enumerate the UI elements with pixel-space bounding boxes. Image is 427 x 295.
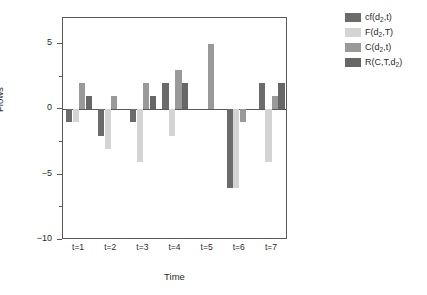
- bar: [162, 83, 168, 109]
- bar-group: [159, 18, 191, 238]
- legend-swatch: [345, 58, 361, 67]
- legend-label: F(d2,T): [365, 28, 393, 37]
- legend-item: C(d2,t): [345, 40, 425, 54]
- bar: [150, 96, 156, 109]
- bar: [208, 44, 214, 109]
- bar-group: [256, 18, 288, 238]
- y-tick-minor: [59, 76, 62, 77]
- bar-group: [127, 18, 159, 238]
- bar: [227, 109, 233, 187]
- legend-label: R(C,T,d2): [365, 58, 402, 67]
- y-tick-major: [57, 174, 62, 175]
- y-axis-title: Flows: [0, 87, 5, 112]
- bar: [259, 83, 265, 109]
- bars-layer: [63, 18, 286, 238]
- bar: [272, 96, 278, 109]
- x-axis-title: Time: [62, 271, 287, 282]
- y-tick-major: [57, 108, 62, 109]
- bar: [98, 109, 104, 135]
- bar: [278, 83, 284, 109]
- bar: [240, 109, 246, 122]
- bar: [73, 109, 79, 122]
- bar: [79, 83, 85, 109]
- legend-swatch: [345, 28, 361, 37]
- y-tick-minor: [59, 141, 62, 142]
- y-tick-major: [57, 239, 62, 240]
- legend-swatch: [345, 43, 361, 52]
- bar: [105, 109, 111, 148]
- y-tick-label: 0: [26, 103, 52, 112]
- legend-label: C(d2,t): [365, 43, 391, 52]
- bar-group: [95, 18, 127, 238]
- legend-item: R(C,T,d2): [345, 55, 425, 69]
- bar: [143, 83, 149, 109]
- legend-label: cf(d2,t): [365, 13, 392, 22]
- legend-swatch: [345, 13, 361, 22]
- bar-group: [63, 18, 95, 238]
- y-tick-minor: [59, 206, 62, 207]
- bar: [137, 109, 143, 161]
- bar-group: [192, 18, 224, 238]
- legend-item: F(d2,T): [345, 25, 425, 39]
- y-tick-label: −10: [26, 234, 52, 243]
- y-tick-label: 5: [26, 38, 52, 47]
- bar: [130, 109, 136, 122]
- chart-container: 50−5−10 Flows t=1t=2t=3t=4t=5t=6t=7 Time…: [0, 0, 427, 295]
- bar: [175, 70, 181, 109]
- y-tick-major: [57, 43, 62, 44]
- x-tick-label: t=7: [251, 243, 291, 252]
- y-tick-label: −5: [26, 169, 52, 178]
- bar: [169, 109, 175, 135]
- bar: [66, 109, 72, 122]
- bar: [111, 96, 117, 109]
- bar: [182, 83, 188, 109]
- bar-group: [224, 18, 256, 238]
- legend-item: cf(d2,t): [345, 10, 425, 24]
- plot-frame: [62, 17, 287, 239]
- bar: [265, 109, 271, 161]
- bar: [86, 96, 92, 109]
- bar: [233, 109, 239, 187]
- legend: cf(d2,t)F(d2,T)C(d2,t)R(C,T,d2): [345, 10, 425, 70]
